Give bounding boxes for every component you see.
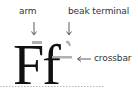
highlight-overlays: [0, 0, 138, 93]
arm-highlight: [32, 41, 42, 44]
beak-terminal-highlight: [66, 41, 71, 46]
crossbar-highlight: [52, 56, 72, 59]
